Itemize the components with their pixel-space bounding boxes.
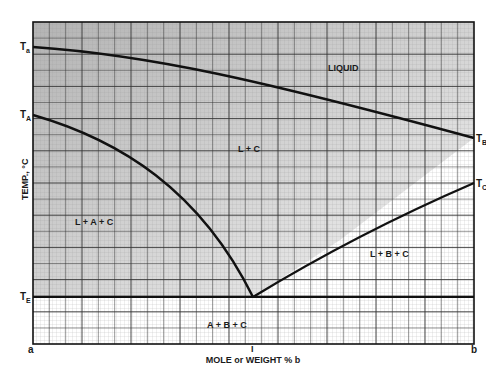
x-axis-labels: a I b MOLE or WEIGHT % b	[28, 344, 477, 365]
region-a-plus-b-plus-c: A + B + C	[207, 320, 247, 330]
tC-label: TC	[476, 178, 486, 191]
region-liquid: LIQUID	[328, 63, 359, 73]
x-axis-title: MOLE or WEIGHT % b	[206, 355, 301, 365]
tE-label: TE	[20, 291, 31, 304]
y-axis-labels: Ta TA TE TEMP., °C	[20, 41, 31, 304]
tB-label: TB	[476, 133, 486, 146]
region-l-plus-c: L + C	[238, 144, 261, 154]
x-label-a: a	[28, 344, 34, 355]
y-axis-title: TEMP., °C	[20, 158, 30, 200]
phase-diagram: Ta TA TE TEMP., °C TB TC a I b MOLE or W…	[0, 0, 486, 382]
tA-label: TA	[20, 109, 31, 122]
x-label-mid: I	[251, 344, 254, 354]
x-label-b: b	[471, 344, 477, 355]
ta-label: Ta	[20, 41, 30, 54]
region-l-plus-b-plus-c: L + B + C	[370, 249, 409, 259]
right-labels: TB TC	[476, 133, 486, 191]
region-l-plus-a-plus-c: L + A + C	[75, 217, 114, 227]
